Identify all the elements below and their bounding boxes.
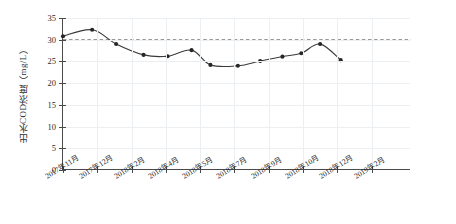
y-axis-tick-inner <box>63 61 66 62</box>
gridline-horizontal <box>63 148 410 149</box>
gridline-vertical <box>97 18 98 169</box>
y-axis-tick-label: 15 <box>48 101 57 110</box>
data-point-marker <box>114 42 118 46</box>
gridline-vertical <box>132 18 133 169</box>
y-axis-tick-label: 25 <box>48 57 57 66</box>
gridline-horizontal <box>63 127 410 128</box>
data-point-marker <box>318 42 322 46</box>
gridline-vertical <box>269 18 270 169</box>
y-axis-tick-inner <box>63 105 66 106</box>
data-point-marker <box>208 63 212 67</box>
gridline-horizontal <box>63 40 410 41</box>
y-axis-tick-inner <box>63 148 66 149</box>
y-axis-tick-label: 20 <box>48 79 57 88</box>
y-axis-title: 出水COD浓度（mg/L） <box>14 18 30 170</box>
y-axis-tick-label: 10 <box>48 122 57 131</box>
data-point-marker <box>280 55 284 59</box>
gridline-horizontal <box>63 18 410 19</box>
y-axis-tick-inner <box>63 83 66 84</box>
y-axis-tick-inner <box>63 127 66 128</box>
cod-concentration-line-chart: 出水COD浓度（mg/L） 05101520253035 2017年11月201… <box>0 0 456 224</box>
gridline-vertical <box>303 18 304 169</box>
gridline-horizontal <box>63 83 410 84</box>
gridline-vertical <box>166 18 167 169</box>
gridline-horizontal <box>63 61 410 62</box>
y-axis-tick-inner <box>63 40 66 41</box>
gridline-vertical <box>234 18 235 169</box>
y-axis-tick-label: 5 <box>52 144 56 153</box>
plot-area: 05101520253035 <box>62 18 410 170</box>
y-axis-title-label: 出水COD浓度（mg/L） <box>16 45 29 143</box>
gridline-vertical <box>372 18 373 169</box>
data-point-marker <box>190 48 194 52</box>
y-axis-tick-label: 35 <box>48 14 57 23</box>
data-point-marker <box>90 28 94 32</box>
data-point-marker <box>61 34 65 38</box>
gridline-vertical <box>337 18 338 169</box>
data-point-marker <box>142 53 146 57</box>
gridline-horizontal <box>63 105 410 106</box>
y-axis-tick-inner <box>63 18 66 19</box>
gridline-vertical <box>200 18 201 169</box>
y-axis-tick-label: 30 <box>48 35 57 44</box>
series-svg <box>63 18 411 170</box>
data-point-marker <box>236 64 240 68</box>
